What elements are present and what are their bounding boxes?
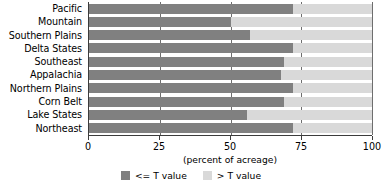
x-axis-title: (percent of acreage) xyxy=(88,154,372,165)
bar-segment-high xyxy=(293,4,372,14)
bar-row xyxy=(89,108,372,121)
stacked-bar-chart: PacificMountainSouthern PlainsDelta Stat… xyxy=(0,0,382,193)
bar-segment-high xyxy=(284,57,372,67)
bar-segment-high xyxy=(250,30,372,40)
bar-segment-low xyxy=(89,57,284,67)
y-axis-category-label: Southeast xyxy=(0,55,86,68)
y-axis-category-label: Corn Belt xyxy=(0,95,86,108)
x-axis-tick xyxy=(301,136,302,140)
bar-segment-low xyxy=(89,70,281,80)
x-axis-tick xyxy=(372,136,373,140)
bar-row xyxy=(89,68,372,81)
bar-row xyxy=(89,122,372,135)
bar-segment-low xyxy=(89,97,284,107)
y-axis-category-label: Northeast xyxy=(0,122,86,135)
legend-item[interactable]: > T value xyxy=(203,170,261,181)
stacked-bar xyxy=(89,97,372,107)
y-axis-category-label: Pacific xyxy=(0,2,86,15)
legend-label: <= T value xyxy=(135,170,187,181)
bar-row xyxy=(89,95,372,108)
bar-segment-high xyxy=(231,17,373,27)
bar-row xyxy=(89,29,372,42)
bar-segment-high xyxy=(281,70,372,80)
stacked-bar xyxy=(89,83,372,93)
x-axis-tick xyxy=(230,136,231,140)
x-axis-line xyxy=(88,135,372,140)
stacked-bar xyxy=(89,57,372,67)
legend-item[interactable]: <= T value xyxy=(121,170,187,181)
y-axis-category-label: Lake States xyxy=(0,108,86,121)
legend-label: > T value xyxy=(217,170,261,181)
stacked-bar xyxy=(89,17,372,27)
bar-row xyxy=(89,2,372,15)
stacked-bar xyxy=(89,110,372,120)
y-axis-category-label: Northern Plains xyxy=(0,82,86,95)
bar-segment-high xyxy=(293,43,372,53)
y-axis-category-label: Appalachia xyxy=(0,68,86,81)
x-axis-tick xyxy=(159,136,160,140)
bar-segment-high xyxy=(247,110,372,120)
x-axis-tick-label: 50 xyxy=(224,141,236,152)
x-axis-tick-label: 0 xyxy=(85,141,91,152)
y-axis-category-labels: PacificMountainSouthern PlainsDelta Stat… xyxy=(0,2,86,135)
bar-row xyxy=(89,82,372,95)
bar-segment-low xyxy=(89,4,293,14)
y-axis-category-label: Southern Plains xyxy=(0,29,86,42)
bar-row xyxy=(89,15,372,28)
stacked-bar xyxy=(89,43,372,53)
legend-swatch-icon xyxy=(203,171,212,180)
x-axis-tick-label: 25 xyxy=(153,141,165,152)
bar-segment-high xyxy=(293,123,372,133)
bar-segment-low xyxy=(89,17,231,27)
bar-segment-high xyxy=(293,83,372,93)
stacked-bar xyxy=(89,70,372,80)
legend-swatch-icon xyxy=(121,171,130,180)
gridline xyxy=(372,2,373,135)
bar-segment-low xyxy=(89,110,247,120)
y-axis-category-label: Mountain xyxy=(0,15,86,28)
bar-segment-low xyxy=(89,123,293,133)
stacked-bar xyxy=(89,123,372,133)
chart-legend: <= T value> T value xyxy=(0,170,382,181)
bar-segment-low xyxy=(89,43,293,53)
stacked-bar xyxy=(89,4,372,14)
x-axis-tick-labels: 0255075100 xyxy=(88,141,372,155)
bar-segment-low xyxy=(89,30,250,40)
bar-segment-low xyxy=(89,83,293,93)
y-axis-category-label: Delta States xyxy=(0,42,86,55)
bar-row xyxy=(89,42,372,55)
x-axis-tick xyxy=(88,136,89,140)
x-axis-tick-label: 100 xyxy=(363,141,381,152)
stacked-bar xyxy=(89,30,372,40)
bar-row xyxy=(89,55,372,68)
plot-area xyxy=(88,2,372,135)
bar-segment-high xyxy=(284,97,372,107)
bar-series-container xyxy=(89,2,372,135)
x-axis-tick-label: 75 xyxy=(295,141,307,152)
plot-area-wrapper: PacificMountainSouthern PlainsDelta Stat… xyxy=(0,2,382,140)
